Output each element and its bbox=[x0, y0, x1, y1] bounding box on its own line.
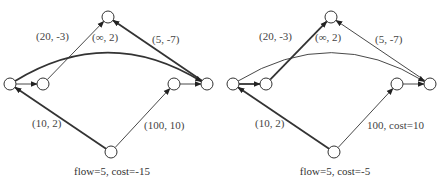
diagram-caption: flow=5, cost=-15 bbox=[74, 165, 150, 177]
node-bottom bbox=[105, 146, 117, 158]
node-d bbox=[201, 78, 213, 90]
edge-label-bottom-a: (10, 2) bbox=[255, 117, 285, 130]
node-b bbox=[37, 78, 49, 90]
edge-a-to-d bbox=[238, 53, 425, 82]
edge-d-to-top bbox=[336, 20, 425, 80]
node-top bbox=[102, 11, 114, 23]
node-a bbox=[227, 78, 239, 90]
edge-d-to-top bbox=[113, 20, 202, 80]
edge-label-b-top: (20, -3) bbox=[36, 30, 69, 43]
edge-label-a-d: (∞, 2) bbox=[315, 31, 342, 44]
node-top bbox=[325, 11, 337, 23]
edge-label-b-top: (20, -3) bbox=[259, 30, 292, 43]
node-bottom bbox=[328, 146, 340, 158]
node-d bbox=[424, 78, 436, 90]
edge-label-a-d: (∞, 2) bbox=[92, 31, 119, 44]
node-c bbox=[168, 78, 180, 90]
flow-diagrams: (20, -3)(5, -7)(∞, 2)(10, 2)(100, 10)flo… bbox=[0, 0, 441, 184]
node-a bbox=[4, 78, 16, 90]
edge-bottom-to-c bbox=[338, 88, 393, 147]
edge-bottom-to-c bbox=[115, 88, 170, 147]
edge-label-bottom-c: (100, 10) bbox=[144, 119, 185, 132]
edge-label-d-top: (5, -7) bbox=[375, 33, 403, 46]
diagram-caption: flow=5, cost=-5 bbox=[300, 165, 371, 177]
node-c bbox=[391, 78, 403, 90]
node-b bbox=[260, 78, 272, 90]
edge-label-bottom-a: (10, 2) bbox=[32, 117, 62, 130]
edge-label-d-top: (5, -7) bbox=[152, 33, 180, 46]
edge-label-bottom-c: 100, cost=10 bbox=[367, 119, 424, 131]
edge-a-to-d bbox=[15, 53, 202, 82]
